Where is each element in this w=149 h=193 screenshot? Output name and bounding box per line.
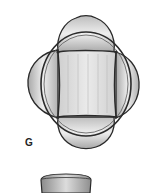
left-lobe xyxy=(28,50,58,118)
panel-label: G xyxy=(25,137,33,148)
central-square xyxy=(58,51,116,118)
four-lobed-structure-illustration xyxy=(0,0,149,193)
lower-cup-object xyxy=(41,174,91,193)
top-lobe xyxy=(58,16,115,52)
